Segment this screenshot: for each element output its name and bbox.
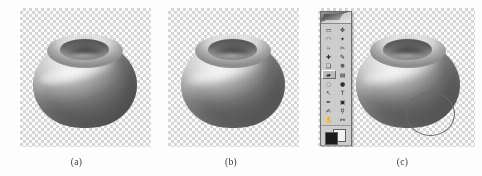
elliptical-selection-marquee[interactable] (406, 92, 455, 136)
shape-tool-icon[interactable]: ▣ (336, 97, 350, 106)
eyedropper-tool-icon[interactable]: ⚲ (336, 106, 350, 115)
crop-tool-icon[interactable]: ⌗ (322, 43, 336, 52)
clone-stamp-tool-icon[interactable]: ❏ (322, 61, 336, 70)
mask-mode-buttons (321, 145, 351, 147)
rendered-sphere-b (181, 28, 285, 128)
photoshop-tool-palette[interactable]: ▭ ✥ ◠ ✦ ⌗ ✂ ✚ ✎ ❏ ❋ ▰ ▤ ◌ ● ↖ T ✒ (320, 11, 352, 146)
healing-brush-tool-icon[interactable]: ✚ (322, 52, 336, 61)
dodge-tool-icon[interactable]: ● (336, 79, 350, 88)
pen-tool-icon[interactable]: ✒ (322, 97, 336, 106)
figure-panel-b: (b) (157, 0, 305, 176)
type-tool-icon[interactable]: T (336, 88, 350, 97)
image-canvas-c: ▭ ✥ ◠ ✦ ⌗ ✂ ✚ ✎ ❏ ❋ ▰ ▤ ◌ ● ↖ T ✒ (318, 8, 475, 147)
panel-caption-a: (a) (0, 157, 159, 167)
brush-tool-icon[interactable]: ✎ (336, 52, 350, 61)
figure-panel-a: (a) (0, 0, 157, 176)
notes-tool-icon[interactable]: ✍ (322, 106, 336, 115)
eraser-tool-icon[interactable]: ▰ (322, 70, 336, 79)
lasso-tool-icon[interactable]: ◠ (322, 34, 336, 43)
gradient-tool-icon[interactable]: ▤ (336, 70, 350, 79)
zoom-tool-icon[interactable]: ⚯ (336, 115, 350, 124)
marquee-tool-icon[interactable]: ▭ (322, 25, 336, 34)
move-tool-icon[interactable]: ✥ (336, 25, 350, 34)
history-brush-tool-icon[interactable]: ❋ (336, 61, 350, 70)
crater-highlight (65, 52, 103, 59)
rendered-sphere-a (33, 28, 137, 128)
foreground-color-swatch[interactable] (325, 132, 338, 145)
palette-title-bar[interactable] (321, 12, 351, 24)
figure-panel-c: ▭ ✥ ◠ ✦ ⌗ ✂ ✚ ✎ ❏ ❋ ▰ ▤ ◌ ● ↖ T ✒ (305, 0, 482, 176)
hand-tool-icon[interactable]: ✋ (322, 115, 336, 124)
slice-tool-icon[interactable]: ✂ (336, 43, 350, 52)
magic-wand-tool-icon[interactable]: ✦ (336, 34, 350, 43)
blur-tool-icon[interactable]: ◌ (322, 79, 336, 88)
crater-highlight (388, 52, 426, 59)
image-canvas-a (20, 8, 151, 147)
tool-grid: ▭ ✥ ◠ ✦ ⌗ ✂ ✚ ✎ ❏ ❋ ▰ ▤ ◌ ● ↖ T ✒ (321, 24, 351, 125)
color-swatches (321, 125, 351, 145)
panel-caption-c: (c) (296, 157, 482, 167)
image-canvas-b (168, 8, 299, 147)
path-selection-tool-icon[interactable]: ↖ (322, 88, 336, 97)
crater-highlight (213, 52, 251, 59)
panel-caption-b: (b) (157, 157, 305, 167)
figure-three-panel: (a) (b) (0, 0, 482, 176)
